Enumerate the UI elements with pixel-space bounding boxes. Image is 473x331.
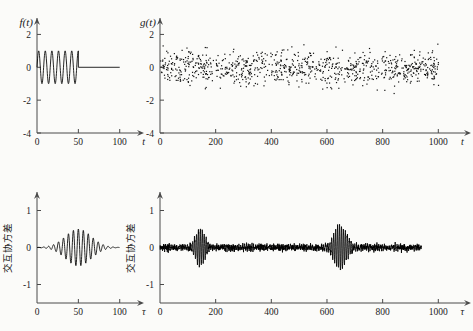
scatter-point: [166, 51, 167, 52]
scatter-point: [292, 63, 293, 64]
scatter-point: [276, 54, 277, 55]
cross-covariance-long-xticklabel: 800: [376, 307, 391, 317]
scatter-point: [287, 80, 288, 81]
scatter-point: [308, 83, 309, 84]
scatter-point: [348, 69, 349, 70]
scatter-point: [404, 61, 405, 62]
scatter-point: [371, 63, 372, 64]
scatter-point: [320, 59, 321, 60]
scatter-point: [301, 65, 302, 66]
scatter-point: [260, 67, 261, 68]
scatter-point: [322, 72, 323, 73]
scatter-point: [332, 63, 333, 64]
scatter-point: [360, 71, 361, 72]
scatter-point: [168, 76, 169, 77]
cross-covariance-long-xticklabel: 1000: [429, 307, 448, 317]
scatter-point: [256, 52, 257, 53]
scatter-point: [162, 59, 163, 60]
scatter-point: [349, 76, 350, 77]
scatter-point: [266, 74, 267, 75]
scatter-point: [437, 44, 438, 45]
scatter-point: [344, 81, 345, 82]
scatter-point: [236, 72, 237, 73]
scatter-point: [336, 66, 337, 67]
scatter-point: [237, 61, 238, 62]
scatter-point: [385, 64, 386, 65]
scatter-point: [292, 74, 293, 75]
scatter-point: [254, 59, 255, 60]
scatter-point: [350, 65, 351, 66]
scatter-point: [348, 60, 349, 61]
signal-g-xticklabel: 0: [158, 137, 163, 147]
scatter-point: [385, 60, 386, 61]
scatter-point: [276, 71, 277, 72]
scatter-point: [356, 66, 357, 67]
scatter-point: [229, 69, 230, 70]
scatter-point: [373, 61, 374, 62]
scatter-point: [383, 56, 384, 57]
scatter-point: [310, 66, 311, 67]
scatter-point: [422, 61, 423, 62]
scatter-point: [250, 68, 251, 69]
scatter-point: [208, 64, 209, 65]
scatter-point: [376, 78, 377, 79]
scatter-point: [204, 68, 205, 69]
cross-covariance-short-yaxis-name: 交互协方差: [2, 223, 13, 273]
scatter-point: [309, 74, 310, 75]
scatter-point: [420, 69, 421, 70]
scatter-point: [271, 74, 272, 75]
scatter-point: [404, 74, 405, 75]
scatter-point: [186, 66, 187, 67]
scatter-point: [412, 66, 413, 67]
scatter-point: [368, 61, 369, 62]
scatter-point: [363, 80, 364, 81]
scatter-point: [313, 53, 314, 54]
scatter-point: [334, 68, 335, 69]
scatter-point: [406, 67, 407, 68]
scatter-point: [414, 62, 415, 63]
scatter-point: [298, 65, 299, 66]
scatter-point: [318, 64, 319, 65]
scatter-point: [235, 68, 236, 69]
scatter-point: [391, 72, 392, 73]
scatter-point: [355, 65, 356, 66]
scatter-point: [370, 67, 371, 68]
scatter-point: [328, 70, 329, 71]
scatter-point: [348, 77, 349, 78]
scatter-point: [409, 66, 410, 67]
scatter-point: [239, 62, 240, 63]
scatter-point: [277, 51, 278, 52]
scatter-point: [359, 78, 360, 79]
scatter-point: [309, 66, 310, 67]
scatter-point: [220, 68, 221, 69]
scatter-point: [296, 80, 297, 81]
scatter-point: [262, 61, 263, 62]
scatter-point: [232, 65, 233, 66]
scatter-point: [263, 85, 264, 86]
scatter-point: [195, 62, 196, 63]
scatter-point: [428, 59, 429, 60]
scatter-point: [206, 71, 207, 72]
scatter-point: [249, 65, 250, 66]
scatter-point: [248, 83, 249, 84]
scatter-point: [204, 71, 205, 72]
scatter-point: [207, 78, 208, 79]
scatter-point: [382, 60, 383, 61]
scatter-point: [385, 51, 386, 52]
scatter-point: [261, 68, 262, 69]
scatter-point: [333, 58, 334, 59]
scatter-point: [277, 61, 278, 62]
scatter-point: [179, 77, 180, 78]
scatter-point: [350, 63, 351, 64]
scatter-point: [419, 55, 420, 56]
scatter-point: [408, 69, 409, 70]
scatter-point: [364, 77, 365, 78]
scatter-point: [167, 52, 168, 53]
scatter-point: [427, 75, 428, 76]
scatter-point: [337, 68, 338, 69]
scatter-point: [319, 65, 320, 66]
scatter-point: [221, 73, 222, 74]
scatter-point: [385, 72, 386, 73]
scatter-point: [254, 69, 255, 70]
scatter-point: [323, 62, 324, 63]
